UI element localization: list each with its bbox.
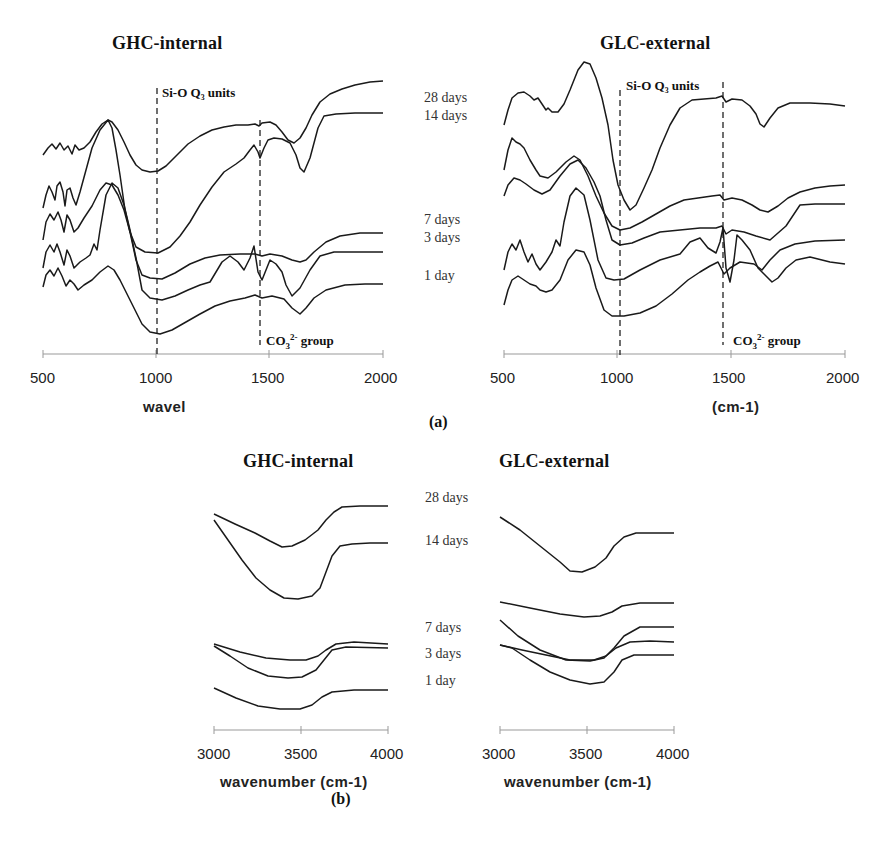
legend-1-day: 1 day (424, 268, 455, 284)
x-tick-label: 1500 (251, 369, 284, 386)
co3-annotation-sub: 3 (753, 341, 758, 351)
si-o-annotation: Si-O Q₃ units (626, 78, 699, 94)
co3-annotation-main: CO (733, 333, 753, 348)
legend-7-days: 7 days (424, 212, 460, 228)
co3-annotation-sup: 2- (290, 332, 298, 342)
legend-7-days: 7 days (425, 620, 461, 636)
co3-annotation: CO32- group (266, 332, 334, 351)
panel-a-right-plot (504, 62, 845, 358)
panel-a-left-title: GHC-internal (112, 33, 222, 54)
panel-b-right-title: GLC-external (499, 451, 609, 472)
trace-28-days (214, 506, 388, 547)
x-tick-label: 3000 (197, 745, 230, 762)
legend-1-day: 1 day (425, 673, 456, 689)
legend-14-days: 14 days (424, 108, 467, 124)
panel-a-right-title: GLC-external (600, 33, 710, 54)
trace-1-day (504, 240, 845, 316)
legend-28-days: 28 days (425, 490, 468, 506)
trace-28-days (500, 517, 674, 572)
x-tick-label: 1000 (139, 369, 172, 386)
x-tick-label: 3500 (569, 745, 602, 762)
panel-a-label: (a) (429, 413, 448, 431)
trace-3-days (504, 188, 845, 282)
co3-annotation-sub: 3 (286, 341, 291, 351)
x-axis-label: wavenumber (cm-1) (220, 773, 368, 790)
trace-14-days (500, 602, 674, 617)
co3-annotation: CO32- group (733, 332, 801, 351)
co3-annotation-tail: group (765, 333, 801, 348)
co3-annotation-main: CO (266, 333, 286, 348)
x-tick-label: 3000 (482, 745, 515, 762)
x-axis-label: wavel (143, 398, 186, 415)
x-tick-label: 2000 (364, 369, 397, 386)
si-o-annotation: Si-O Q₃ units (162, 85, 235, 101)
x-tick-label: 1500 (712, 369, 745, 386)
co3-annotation-tail: group (298, 333, 334, 348)
x-tick-label: 500 (30, 369, 55, 386)
trace-7-days (214, 642, 388, 660)
panel-a-left-plot (43, 81, 383, 358)
x-tick-label: 4000 (370, 745, 403, 762)
x-tick-label: 3500 (284, 745, 317, 762)
trace-7-days (43, 183, 383, 279)
panel-b-left-title: GHC-internal (243, 451, 353, 472)
x-tick-label: 500 (490, 369, 515, 386)
x-axis-label: (cm-1) (712, 398, 759, 415)
x-axis-label: wavenumber (cm-1) (504, 773, 652, 790)
x-tick-label: 1000 (600, 369, 633, 386)
trace-3-days (214, 646, 388, 678)
co3-annotation-sup: 2- (757, 332, 765, 342)
legend-3-days: 3 days (424, 230, 460, 246)
panel-b-label: (b) (331, 790, 351, 808)
legend-3-days: 3 days (425, 646, 461, 662)
trace-1-day (214, 688, 388, 709)
x-tick-label: 4000 (656, 745, 689, 762)
panel-b-left-plot (214, 506, 388, 734)
trace-14-days (214, 520, 388, 599)
panel-b-right-plot (500, 517, 674, 734)
x-tick-label: 2000 (826, 369, 859, 386)
legend-14-days: 14 days (425, 533, 468, 549)
legend-28-days: 28 days (424, 90, 467, 106)
